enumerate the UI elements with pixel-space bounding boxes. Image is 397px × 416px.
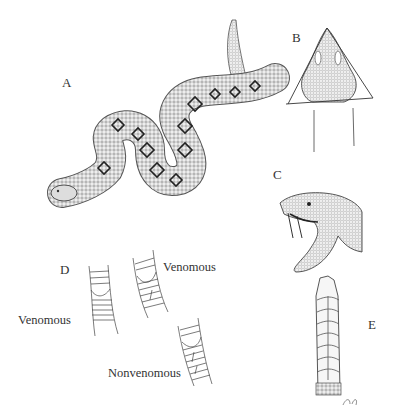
panel-label-b: B bbox=[292, 31, 301, 44]
illustration-canvas bbox=[0, 0, 397, 416]
label-venomous-left: Venomous bbox=[18, 314, 71, 327]
label-venomous-right: Venomous bbox=[163, 261, 216, 274]
snake-body-figure bbox=[51, 20, 275, 201]
panel-label-a: A bbox=[62, 76, 71, 89]
head-dorsal-figure bbox=[286, 28, 373, 152]
label-nonvenomous: Nonvenomous bbox=[108, 367, 181, 380]
artist-signature bbox=[343, 400, 357, 405]
panel-label-d: D bbox=[60, 263, 69, 276]
panel-label-e: E bbox=[368, 318, 376, 331]
head-open-mouth-figure bbox=[280, 193, 362, 272]
ventral-scales-nonvenomous bbox=[178, 318, 212, 386]
rattle-figure bbox=[316, 276, 357, 405]
ventral-scales-venomous-left bbox=[89, 265, 118, 336]
panel-label-c: C bbox=[273, 168, 282, 181]
